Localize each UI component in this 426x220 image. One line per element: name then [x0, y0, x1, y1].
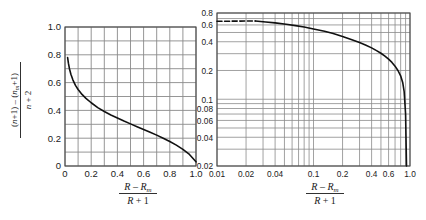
x-tick-label: 0	[62, 168, 67, 179]
gridlines	[217, 13, 410, 166]
y-tick-label: 0.6	[201, 20, 213, 30]
y-tick-label: 0.4	[201, 37, 213, 47]
figure-container: 00.20.40.60.81.000.20.40.60.81.00.010.02…	[0, 0, 426, 220]
numerator: (n+1) – (nm+1)	[9, 73, 20, 127]
x-tick-label: 0.6	[137, 168, 150, 179]
x-tick-label: 0.02	[238, 169, 255, 179]
x-axis-label-right: R – RmR + 1	[306, 181, 344, 206]
numerator: R – Rm	[310, 181, 338, 194]
x-tick-label: 0.4	[366, 169, 378, 179]
y-tick-label: 0.06	[197, 116, 214, 126]
x-tick-label: 0.2	[85, 168, 98, 179]
denominator: n + 2	[23, 91, 33, 110]
chart-svg: 00.20.40.60.81.000.20.40.60.81.00.010.02…	[0, 0, 426, 220]
x-tick-label: 0.04	[267, 169, 284, 179]
x-tick-label: 0.1	[308, 169, 320, 179]
y-tick-label: 0.8	[201, 8, 213, 18]
x-tick-label: 0.6	[383, 169, 395, 179]
left-linear-chart: 00.20.40.60.81.000.20.40.60.81.0	[48, 21, 203, 179]
y-tick-label: 0.02	[197, 161, 214, 171]
x-tick-label: 1.0	[404, 169, 416, 179]
y-tick-label: 0.4	[48, 105, 61, 116]
right-loglog-chart: 0.010.020.040.10.20.40.61.00.020.040.060…	[197, 8, 416, 179]
y-tick-label: 0.8	[48, 49, 61, 60]
y-tick-label: 0.6	[48, 77, 61, 88]
numerator: R – Rm	[123, 181, 151, 194]
denominator: R + 1	[126, 195, 149, 206]
x-axis-label-left: R – RmR + 1	[119, 181, 157, 206]
y-axis-label-left: (n+1) – (nm+1)n + 2	[9, 62, 33, 138]
denominator: R + 1	[313, 195, 336, 206]
x-tick-label: 0.2	[337, 169, 349, 179]
y-tick-label: 0.04	[197, 133, 214, 143]
y-tick-label: 0	[56, 160, 61, 171]
y-tick-label: 0.2	[201, 66, 213, 76]
y-tick-label: 1.0	[48, 21, 61, 32]
y-tick-label: 0.1	[201, 95, 213, 105]
y-tick-label: 0.2	[48, 133, 61, 144]
x-tick-label: 0.4	[111, 168, 124, 179]
y-tick-label: 0.08	[197, 104, 214, 114]
x-tick-label: 0.8	[163, 168, 176, 179]
